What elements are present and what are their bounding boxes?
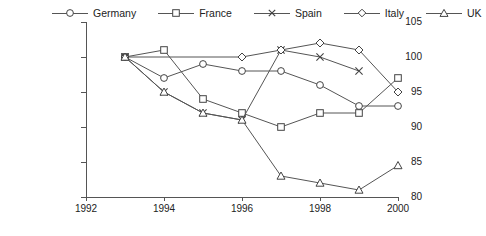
data-point: [316, 39, 324, 47]
series-line: [125, 57, 398, 106]
triangle-marker-icon: [426, 7, 462, 19]
series-uk: [121, 53, 402, 193]
legend-label-uk: UK: [467, 7, 482, 19]
data-point: [200, 61, 207, 68]
data-point: [395, 103, 402, 110]
data-point: [356, 103, 363, 110]
data-point: [200, 96, 207, 103]
data-point: [278, 124, 285, 131]
data-point: [161, 47, 168, 54]
data-point: [317, 110, 324, 117]
data-point: [394, 162, 402, 169]
data-point: [317, 82, 324, 89]
data-point: [355, 67, 362, 74]
data-point: [238, 53, 246, 61]
data-point: [161, 75, 168, 82]
data-point: [277, 172, 285, 179]
series-germany: [122, 54, 402, 110]
data-point: [395, 75, 402, 82]
data-point: [356, 110, 363, 117]
data-point: [278, 68, 285, 75]
data-point: [239, 68, 246, 75]
legend-item-uk: UK: [426, 7, 482, 19]
